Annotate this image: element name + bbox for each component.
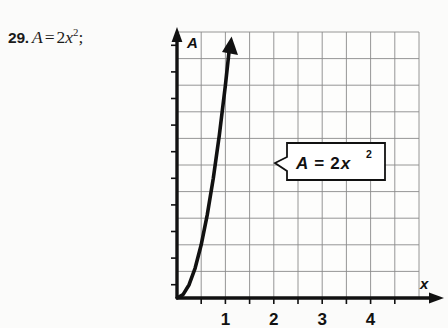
equation-terminator: ; — [78, 27, 83, 47]
graph-panel: A x 0 2 4 6 8 1 2 3 4 — [163, 24, 448, 328]
x-tick-labels: 1 2 3 4 — [221, 310, 376, 328]
problem-number: 29. — [8, 29, 29, 46]
callout-var-right: x — [340, 154, 352, 173]
x-tick-label: 3 — [317, 310, 326, 328]
x-axis-label: x — [419, 275, 429, 292]
callout-exponent: 2 — [366, 148, 372, 160]
y-axis-label: A — [186, 34, 198, 51]
x-tick-label: 2 — [269, 310, 278, 328]
equation-operator: = — [43, 27, 57, 47]
x-tick-label: 4 — [366, 310, 376, 328]
problem-equation: A=2x2; — [29, 27, 83, 47]
equation-var-right: x — [65, 27, 73, 47]
callout-operator: = — [314, 154, 324, 173]
equation-var-left: A — [32, 27, 43, 47]
callout-var-left: A — [295, 154, 308, 173]
curve-callout: A=2x 2 — [275, 143, 385, 180]
equation-coefficient: 2 — [57, 27, 66, 47]
callout-coefficient: 2 — [330, 154, 339, 173]
x-tick-label: 1 — [221, 310, 230, 328]
callout-label: A=2x — [295, 154, 352, 173]
exercise-figure: 29.A=2x2; — [0, 0, 448, 328]
problem-label: 29.A=2x2; — [8, 26, 83, 48]
